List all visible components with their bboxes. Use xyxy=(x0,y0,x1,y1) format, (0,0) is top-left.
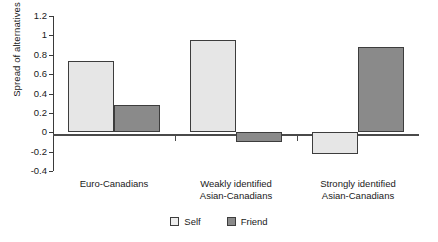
y-tick-label: 0.2 xyxy=(17,107,47,118)
y-tick-mark xyxy=(49,171,53,172)
legend-swatch-friend xyxy=(227,217,236,226)
legend-label: Friend xyxy=(241,216,268,227)
y-axis-line xyxy=(53,16,54,171)
x-axis-labels: Euro-CanadiansWeakly identified Asian-Ca… xyxy=(53,178,419,212)
y-tick-mark xyxy=(49,94,53,95)
legend-item-self[interactable]: Self xyxy=(170,216,200,227)
y-tick-label: -0.4 xyxy=(17,165,47,176)
x-tick-mark xyxy=(175,136,176,141)
y-tick-label: 0 xyxy=(17,126,47,137)
y-tick-mark xyxy=(49,16,53,17)
legend-swatch-self xyxy=(170,217,179,226)
y-tick-mark xyxy=(49,35,53,36)
bar-friend-group-3 xyxy=(358,47,404,132)
bar-friend-group-2 xyxy=(236,132,282,142)
y-tick-label: 0.6 xyxy=(17,68,47,79)
y-tick-mark xyxy=(49,74,53,75)
x-axis-label-2: Weakly identified Asian-Canadians xyxy=(175,178,297,202)
y-tick-label: 1 xyxy=(17,29,47,40)
bar-chart: Spread of alternatives 1.210.80.60.40.20… xyxy=(0,0,438,242)
y-tick-label: -0.2 xyxy=(17,146,47,157)
y-tick-mark xyxy=(49,152,53,153)
bar-self-group-2 xyxy=(190,40,236,132)
legend-label: Self xyxy=(184,216,200,227)
chart-legend: SelfFriend xyxy=(0,216,438,227)
y-tick-label: 0.8 xyxy=(17,49,47,60)
legend-item-friend[interactable]: Friend xyxy=(227,216,268,227)
bar-self-group-3 xyxy=(312,132,358,153)
y-tick-label: 0.4 xyxy=(17,88,47,99)
y-tick-mark xyxy=(49,132,53,133)
x-axis-label-1: Euro-Canadians xyxy=(53,178,175,190)
plot-area: 1.210.80.60.40.20-0.2-0.4 xyxy=(53,16,419,171)
y-tick-mark xyxy=(49,55,53,56)
y-tick-label: 1.2 xyxy=(17,10,47,21)
bar-friend-group-1 xyxy=(114,105,160,132)
bar-self-group-1 xyxy=(68,61,114,133)
x-axis-label-3: Strongly identified Asian-Canadians xyxy=(297,178,419,202)
y-tick-mark xyxy=(49,113,53,114)
x-tick-mark xyxy=(297,136,298,141)
